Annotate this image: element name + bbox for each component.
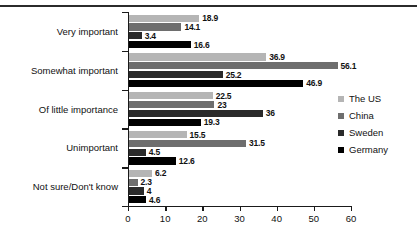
bar [129, 80, 303, 87]
legend-label: Germany [349, 144, 388, 155]
bar-group: 18.914.13.416.6 [0, 12, 417, 51]
value-axis-tick-label: 10 [160, 213, 171, 224]
bar-group: 6.22.344.6 [0, 167, 417, 206]
bar [129, 62, 338, 69]
bar-value-label: 36 [266, 108, 275, 118]
value-axis: 0102030405060 [0, 206, 417, 236]
category-tick [122, 90, 128, 91]
bar-row: 2.3 [129, 179, 138, 186]
bar [129, 101, 214, 108]
bar-row: 14.1 [129, 23, 181, 30]
category-tick [122, 128, 128, 129]
legend-label: China [349, 110, 374, 121]
legend-item[interactable]: Sweden [338, 124, 417, 141]
category-tick [122, 12, 128, 13]
bar-row: 36 [129, 110, 263, 117]
value-axis-tick [202, 206, 203, 211]
bar-value-label: 56.1 [341, 61, 357, 71]
value-axis-tick [165, 206, 166, 211]
value-axis-tick [351, 206, 352, 211]
value-axis-tick-label: 60 [346, 213, 357, 224]
bar [129, 32, 142, 39]
bar [129, 149, 146, 156]
bar [129, 92, 213, 99]
bar-value-label: 4.6 [149, 195, 160, 205]
bar-group: 36.956.125.246.9 [0, 51, 417, 90]
bar [129, 110, 263, 117]
bar-value-label: 46.9 [305, 79, 323, 87]
bar-row: 12.6 [129, 157, 176, 164]
chart-figure: Very importantSomewhat importantOf littl… [0, 0, 417, 245]
bar-value-label: 16.6 [194, 40, 210, 50]
bar-value-label: 31.5 [249, 138, 265, 148]
category-tick [122, 51, 128, 52]
bar [129, 15, 199, 22]
bar-value-label: 23 [216, 101, 227, 109]
bar [129, 157, 176, 164]
bar [129, 41, 191, 48]
bar [129, 131, 187, 138]
bar-value-label: 25.2 [225, 71, 243, 79]
bar-row: 25.2 [129, 71, 223, 78]
bar-row: 18.9 [129, 15, 199, 22]
bar-row: 56.1 [129, 62, 338, 69]
legend-item[interactable]: The US [338, 90, 417, 107]
bar-row: 46.9 [129, 80, 303, 87]
bar [129, 119, 201, 126]
legend-item[interactable]: Germany [338, 141, 417, 158]
bar-row: 6.2 [129, 170, 152, 177]
category-tick [122, 167, 128, 168]
legend-swatch-icon [338, 147, 344, 153]
bar-row: 31.5 [129, 140, 246, 147]
bar-row: 22.5 [129, 92, 213, 99]
value-axis-tick-label: 30 [234, 213, 245, 224]
value-axis-tick-label: 40 [271, 213, 282, 224]
bar [129, 71, 223, 78]
bar-value-label: 18.9 [202, 13, 218, 23]
value-axis-tick [277, 206, 278, 211]
top-divider-rule [0, 5, 417, 7]
bar-value-label: 36.9 [268, 53, 286, 61]
bar-row: 36.9 [129, 53, 266, 60]
bar-row: 15.5 [129, 131, 187, 138]
bar-value-label: 3.4 [144, 32, 157, 40]
bar-row: 19.3 [129, 119, 201, 126]
bar-row: 23 [129, 101, 214, 108]
legend-swatch-icon [338, 113, 344, 119]
legend-item[interactable]: China [338, 107, 417, 124]
bar-row: 4 [129, 187, 144, 194]
value-axis-tick-label: 50 [309, 213, 320, 224]
bar [129, 187, 144, 194]
bar-value-label: 6.2 [155, 168, 166, 178]
bar-value-label: 15.5 [189, 131, 207, 139]
bar-value-label: 22.5 [215, 92, 233, 100]
bar-value-label: 4.5 [148, 148, 161, 156]
legend-label: The US [349, 93, 381, 104]
bar [129, 196, 146, 203]
bar-row: 4.6 [129, 196, 146, 203]
legend-swatch-icon [338, 96, 344, 102]
value-axis-tick [314, 206, 315, 211]
value-axis-tick [128, 206, 129, 211]
chart-legend: The USChinaSwedenGermany [338, 90, 417, 158]
bar-row: 3.4 [129, 32, 142, 39]
bar-value-label: 14.1 [183, 23, 201, 31]
bar-value-label: 12.6 [178, 157, 196, 165]
legend-label: Sweden [349, 127, 383, 138]
bar [129, 170, 152, 177]
legend-swatch-icon [338, 130, 344, 136]
bar-value-label: 19.3 [203, 118, 221, 126]
bar [129, 179, 138, 186]
bar [129, 23, 181, 30]
value-axis-tick [240, 206, 241, 211]
bar [129, 140, 246, 147]
bar-row: 4.5 [129, 149, 146, 156]
value-axis-tick-label: 0 [125, 213, 130, 224]
value-axis-tick-label: 20 [197, 213, 208, 224]
bar [129, 53, 266, 60]
bar-value-label: 2.3 [140, 178, 153, 186]
bar-row: 16.6 [129, 41, 191, 48]
